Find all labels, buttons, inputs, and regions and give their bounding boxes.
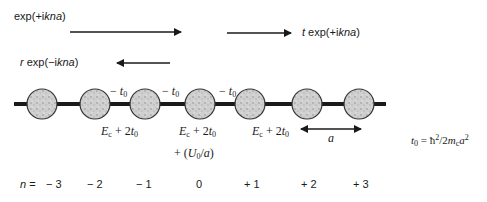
energy-t-subscript: 0: [212, 130, 216, 139]
energy-plus: + 2: [263, 124, 282, 138]
energy-plus: + 2: [112, 124, 131, 138]
reflected-wave-label: r exp(−ikna): [20, 56, 78, 68]
spacing-label: a: [328, 131, 334, 146]
hopping-sign: −: [110, 84, 120, 98]
hopping-subscript: 0: [123, 90, 127, 99]
hopping-label: − t0: [110, 84, 127, 99]
hopping-sign: −: [219, 84, 229, 98]
onsite-energy-label: Ec + 2t0: [252, 124, 289, 139]
hopping-definition: t0 = ħ2/2mca2: [411, 133, 469, 148]
def-eq-hbar: = ħ: [418, 134, 435, 146]
site-index: + 1: [244, 178, 260, 190]
transmitted-var: kna: [338, 26, 356, 38]
hopping-label: − t0: [219, 84, 236, 99]
site-n-0: [185, 89, 215, 119]
diagram-graphics: [0, 0, 487, 202]
energy-plus: + 2: [190, 124, 209, 138]
hopping-subscript: 0: [232, 90, 236, 99]
reflected-func: exp(−i: [24, 56, 57, 68]
site-index: + 2: [301, 178, 317, 190]
impurity-open: + (: [174, 146, 188, 160]
incident-close: ): [62, 10, 66, 22]
transmitted-wave-label: t exp(+ikna): [302, 26, 360, 38]
reflected-var: kna: [57, 56, 75, 68]
def-m: m: [448, 134, 456, 146]
site-n-minus-2: [80, 89, 110, 119]
index-prefix: n =: [20, 178, 36, 190]
def-a-power: 2: [465, 133, 469, 142]
hopping-sign: −: [162, 84, 172, 98]
transmitted-close: ): [356, 26, 360, 38]
index-equals: =: [26, 178, 35, 190]
site-index: − 3: [46, 178, 62, 190]
def-denominator: /2: [439, 134, 448, 146]
incident-var: kna: [44, 10, 62, 22]
site-n-minus-3: [27, 89, 57, 119]
incident-func: exp(+i: [14, 10, 44, 22]
energy-t-subscript: 0: [134, 130, 138, 139]
energy-t-subscript: 0: [285, 130, 289, 139]
hopping-label: − t0: [162, 84, 179, 99]
site-index: 0: [196, 178, 202, 190]
transmitted-func: exp(+i: [305, 26, 338, 38]
site-index: − 1: [136, 178, 152, 190]
hopping-subscript: 0: [175, 90, 179, 99]
site-n-plus-3: [344, 89, 374, 119]
impurity-close: ): [210, 146, 214, 160]
site-index: + 3: [353, 178, 369, 190]
site-n-plus-1: [235, 89, 265, 119]
reflected-close: ): [75, 56, 79, 68]
site-n-minus-1: [130, 89, 160, 119]
onsite-energy-label: Ec + 2t0: [179, 124, 216, 139]
site-index: − 2: [87, 178, 103, 190]
incident-wave-label: exp(+ikna): [14, 10, 66, 22]
site-n-plus-2: [292, 89, 322, 119]
impurity-potential-label: + (U0/a): [174, 146, 214, 161]
onsite-energy-label: Ec + 2t0: [101, 124, 138, 139]
